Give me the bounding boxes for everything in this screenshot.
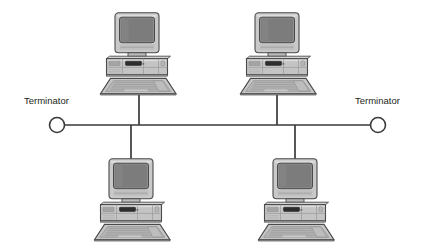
workstation-top-right[interactable] <box>241 13 317 95</box>
network-diagram-svg: Terminator Terminator <box>0 0 421 244</box>
terminator-left-label: Terminator <box>24 95 69 106</box>
workstation-bottom-right[interactable] <box>259 159 335 241</box>
workstation-bottom-left[interactable] <box>95 159 171 241</box>
desktop-computer-icon <box>95 159 171 241</box>
desktop-computer-icon <box>241 13 317 95</box>
desktop-computer-icon <box>101 13 177 95</box>
workstation-top-left[interactable] <box>101 13 177 95</box>
terminator-right[interactable]: Terminator <box>355 95 400 133</box>
terminator-left[interactable]: Terminator <box>24 95 69 133</box>
terminator-right-label: Terminator <box>355 95 400 106</box>
terminator-left-circle <box>50 118 65 133</box>
terminator-right-circle <box>371 118 386 133</box>
network-diagram-canvas: Terminator Terminator <box>0 0 421 244</box>
desktop-computer-icon <box>259 159 335 241</box>
